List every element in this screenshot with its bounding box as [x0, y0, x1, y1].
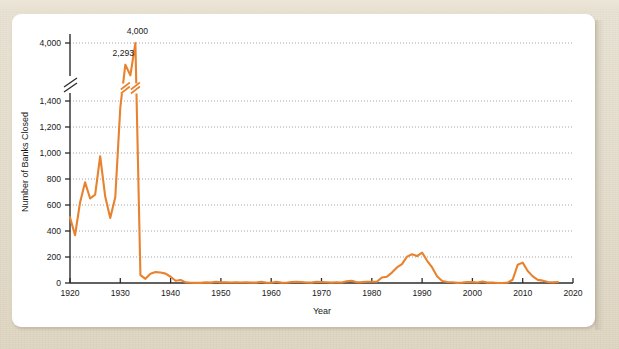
y-tick-label: 4,000	[39, 38, 61, 48]
x-tick-label: 2000	[463, 288, 482, 298]
card-drop-shadow	[595, 20, 604, 330]
x-tick-label: 1990	[413, 288, 432, 298]
y-tick-label: 1,200	[39, 122, 61, 132]
data-annotation-label: 2,293	[113, 48, 135, 58]
x-tick-label: 1930	[111, 288, 130, 298]
y-tick-label: 800	[47, 174, 62, 184]
x-tick-label: 1920	[60, 288, 79, 298]
figure-card: 02004006008001,0001,2001,4004,000 192019…	[12, 14, 595, 327]
y-axis-break-marker	[64, 76, 77, 93]
data-series-line	[70, 43, 558, 283]
data-annotation-label: 4,000	[127, 26, 149, 36]
series-break-marker	[121, 83, 140, 94]
x-tick-label: 1960	[262, 288, 281, 298]
x-tick-label: 1980	[362, 288, 381, 298]
x-tick-label: 1940	[161, 288, 180, 298]
caption-sliver	[6, 0, 306, 4]
y-tick-label: 400	[47, 226, 62, 236]
y-axis-title: Number of Banks Closed	[20, 112, 30, 212]
bank-closures-line-chart: 02004006008001,0001,2001,4004,000 192019…	[12, 14, 595, 327]
y-axis-ticks: 02004006008001,0001,2001,4004,000	[39, 38, 70, 288]
gridlines	[70, 43, 573, 257]
x-axis-title: Year	[313, 306, 331, 316]
x-tick-label: 1970	[312, 288, 331, 298]
x-tick-label: 2010	[513, 288, 532, 298]
data-annotations: 4,0002,293	[113, 26, 149, 58]
y-tick-label: 200	[47, 252, 62, 262]
y-tick-label: 0	[56, 278, 61, 288]
x-tick-label: 1950	[211, 288, 230, 298]
y-tick-label: 1,400	[39, 96, 61, 106]
y-tick-label: 600	[47, 200, 62, 210]
x-tick-label: 2020	[563, 288, 582, 298]
y-tick-label: 1,000	[39, 148, 61, 158]
